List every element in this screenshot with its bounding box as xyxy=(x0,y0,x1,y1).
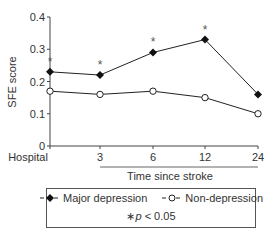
significance-star: * xyxy=(203,23,208,37)
series-lines: **** xyxy=(46,23,262,117)
open-circle-marker xyxy=(47,88,53,94)
axes: 00.10.20.30.4Hospital361224 xyxy=(8,11,264,167)
legend-item-major-depression: Major depression xyxy=(39,192,147,204)
y-tick-label: 0.4 xyxy=(30,11,45,23)
legend-label-major: Major depression xyxy=(63,192,147,204)
significance-star: * xyxy=(151,35,156,49)
x-tick-label: 12 xyxy=(199,151,211,163)
x-tick-label: 6 xyxy=(150,151,156,163)
x-tick-label: 24 xyxy=(252,151,264,163)
y-tick-label: 0.1 xyxy=(30,108,45,120)
x-tick-label: 3 xyxy=(97,151,103,163)
open-circle-marker xyxy=(97,91,103,97)
open-circle-marker xyxy=(150,88,156,94)
open-circle-marker xyxy=(255,111,261,117)
y-tick-label: 0.2 xyxy=(30,76,45,88)
x-tick-label: Hospital xyxy=(8,151,48,163)
filled-diamond-marker-icon xyxy=(39,193,61,203)
filled-diamond-marker xyxy=(46,68,54,76)
open-circle-marker-icon xyxy=(161,193,183,203)
legend: Major depression Non-depression ∗p < 0.0… xyxy=(46,188,256,228)
significance-star: * xyxy=(48,55,53,69)
significance-note: ∗p < 0.05 xyxy=(47,210,255,223)
y-tick-label: 0.3 xyxy=(30,43,45,55)
open-circle-marker xyxy=(202,94,208,100)
filled-diamond-marker xyxy=(149,48,157,56)
significance-star: * xyxy=(98,58,103,72)
y-axis-title: SFE score xyxy=(6,56,18,107)
legend-item-non-depression: Non-depression xyxy=(161,192,263,204)
legend-label-non: Non-depression xyxy=(185,192,263,204)
p-threshold: < 0.05 xyxy=(142,210,176,222)
filled-diamond-marker xyxy=(96,71,104,79)
x-axis-title: Time since stroke xyxy=(127,170,213,182)
